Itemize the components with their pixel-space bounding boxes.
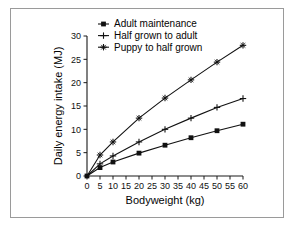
y-tick-label: 15: [71, 101, 81, 111]
x-tick-label: 60: [238, 181, 248, 191]
y-tick-label: 0: [76, 171, 81, 181]
data-point-filled-square: [163, 143, 168, 148]
series-line-half-grown-to-adult: [87, 99, 243, 176]
data-point-filled-square: [111, 160, 116, 165]
x-tick-label: 30: [160, 181, 170, 191]
x-tick-label: 55: [225, 181, 235, 191]
legend-label-1: Half grown to adult: [114, 30, 198, 41]
y-axis-title: Daily energy intake (MJ): [52, 47, 64, 166]
x-tick-label: 40: [186, 181, 196, 191]
legend-marker-filled-square: [101, 22, 106, 27]
x-tick-label: 50: [212, 181, 222, 191]
y-tick-label: 30: [71, 31, 81, 41]
x-tick-label: 5: [97, 181, 102, 191]
y-tick-label: 20: [71, 78, 81, 88]
y-tick-label: 25: [71, 55, 81, 65]
data-point-filled-square: [137, 151, 142, 156]
data-point-origin: [85, 174, 90, 179]
data-point-filled-square: [215, 128, 220, 133]
x-tick-label: 20: [134, 181, 144, 191]
y-tick-label: 5: [76, 148, 81, 158]
x-tick-label: 0: [84, 181, 89, 191]
x-tick-label: 35: [173, 181, 183, 191]
x-tick-label: 10: [108, 181, 118, 191]
legend-label-2: Puppy to half grown: [114, 42, 202, 53]
legend-label-0: Adult maintenance: [114, 18, 197, 29]
x-tick-label: 45: [199, 181, 209, 191]
line-chart: 051015202530354045505560051015202530Body…: [0, 0, 294, 228]
x-tick-label: 15: [121, 181, 131, 191]
x-tick-label: 25: [147, 181, 157, 191]
chart-canvas: 051015202530354045505560051015202530Body…: [0, 0, 294, 228]
data-point-filled-square: [241, 122, 246, 127]
y-tick-label: 10: [71, 125, 81, 135]
x-axis-title: Bodyweight (kg): [126, 194, 205, 206]
data-point-filled-square: [189, 135, 194, 140]
